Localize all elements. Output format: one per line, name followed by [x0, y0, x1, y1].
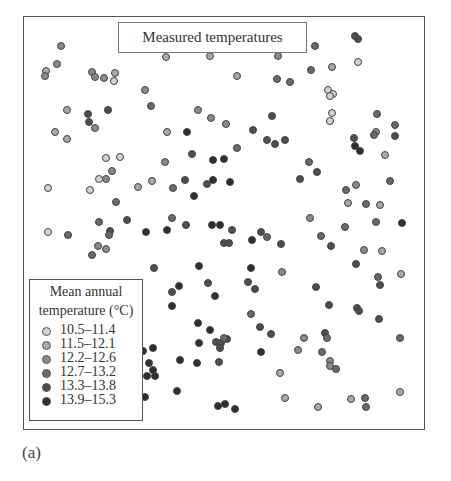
- temperature-point: [206, 52, 214, 60]
- temperature-point: [277, 240, 285, 248]
- temperature-point: [325, 301, 333, 309]
- temperature-point: [44, 184, 52, 192]
- temperature-point: [396, 388, 404, 396]
- temperature-point: [306, 214, 314, 222]
- temperature-point: [360, 246, 368, 254]
- legend-title-line2: temperature (°C): [30, 301, 142, 320]
- temperature-point: [231, 405, 239, 413]
- temperature-point: [220, 155, 228, 163]
- temperature-point: [228, 226, 236, 234]
- temperature-point: [274, 52, 282, 60]
- map-title: Measured temperatures: [118, 22, 307, 53]
- temperature-point: [300, 334, 308, 342]
- temperature-point: [256, 323, 264, 331]
- panel-label: (a): [22, 443, 41, 463]
- temperature-point: [134, 183, 142, 191]
- temperature-point: [108, 167, 116, 175]
- temperature-point: [248, 236, 256, 244]
- legend-swatch-icon: [42, 369, 51, 378]
- temperature-point: [91, 124, 99, 132]
- temperature-point: [208, 221, 216, 229]
- temperature-point: [381, 151, 389, 159]
- temperature-point: [104, 106, 112, 114]
- temperature-point: [271, 140, 279, 148]
- temperature-point: [63, 135, 71, 143]
- temperature-point: [278, 268, 286, 276]
- temperature-point: [323, 334, 331, 342]
- temperature-point: [373, 110, 381, 118]
- temperature-point: [294, 346, 302, 354]
- temperature-point: [94, 242, 102, 250]
- temperature-point: [86, 186, 94, 194]
- temperature-point: [249, 126, 257, 134]
- temperature-point: [100, 74, 108, 82]
- temperature-point: [105, 231, 113, 239]
- temperature-point: [352, 260, 360, 268]
- temperature-point: [88, 251, 96, 259]
- temperature-point: [273, 75, 281, 83]
- temperature-point: [326, 117, 334, 125]
- temperature-point: [342, 186, 350, 194]
- temperature-point: [318, 348, 326, 356]
- temperature-point: [233, 144, 241, 152]
- temperature-point: [53, 60, 61, 68]
- temperature-point: [211, 292, 219, 300]
- temperature-point: [247, 310, 255, 318]
- temperature-point: [173, 387, 181, 395]
- temperature-point: [193, 359, 201, 367]
- temperature-point: [111, 69, 119, 77]
- temperature-point: [317, 232, 325, 240]
- temperature-point: [374, 273, 382, 281]
- temperature-point: [209, 156, 217, 164]
- temperature-point: [142, 228, 150, 236]
- temperature-point: [168, 302, 176, 310]
- temperature-point: [169, 184, 177, 192]
- temperature-point: [143, 372, 151, 380]
- temperature-point: [194, 106, 202, 114]
- temperature-point: [225, 239, 233, 247]
- temperature-point: [296, 175, 304, 183]
- temperature-point: [176, 356, 184, 364]
- temperature-point: [206, 326, 214, 334]
- legend-item: 13.9–15.3: [30, 394, 142, 408]
- temperature-point: [263, 136, 271, 144]
- temperature-point: [398, 219, 406, 227]
- temperature-point: [216, 221, 224, 229]
- temperature-point: [163, 128, 171, 136]
- temperature-point: [91, 73, 99, 81]
- temperature-point: [41, 72, 49, 80]
- legend-swatch-icon: [42, 341, 51, 350]
- temperature-point: [207, 114, 215, 122]
- legend: Mean annual temperature (°C) 10.5–11.4 1…: [29, 279, 143, 421]
- temperature-point: [182, 221, 190, 229]
- temperature-point: [370, 131, 378, 139]
- temperature-point: [328, 109, 336, 117]
- temperature-point: [63, 106, 71, 114]
- temperature-point: [332, 365, 340, 373]
- temperature-point: [327, 242, 335, 250]
- temperature-point: [190, 192, 198, 200]
- temperature-point: [313, 168, 321, 176]
- temperature-point: [215, 358, 223, 366]
- temperature-point: [361, 394, 369, 402]
- temperature-point: [328, 63, 336, 71]
- temperature-point: [116, 153, 124, 161]
- temperature-point: [233, 72, 241, 80]
- temperature-point: [51, 128, 59, 136]
- temperature-point: [351, 32, 359, 40]
- temperature-point: [64, 231, 72, 239]
- temperature-point: [244, 278, 252, 286]
- temperature-point: [181, 176, 189, 184]
- legend-swatch-icon: [42, 383, 51, 392]
- temperature-point: [267, 330, 275, 338]
- temperature-point: [281, 136, 289, 144]
- temperature-point: [376, 201, 384, 209]
- temperature-point: [44, 228, 52, 236]
- temperature-point: [276, 369, 284, 377]
- temperature-point: [247, 264, 255, 272]
- legend-title-line1: Mean annual: [30, 282, 142, 301]
- temperature-point: [251, 285, 259, 293]
- temperature-point: [57, 42, 65, 50]
- temperature-point: [350, 134, 358, 142]
- temperature-point: [326, 92, 334, 100]
